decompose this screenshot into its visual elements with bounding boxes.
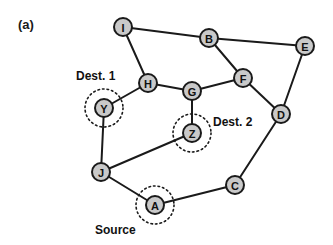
network-diagram-figure: IBEFHGYDZJCA Dest. 1Dest. 2Source (a) — [0, 0, 333, 245]
node-label-d: D — [277, 109, 285, 121]
node-label-b: B — [205, 33, 213, 45]
node-label-j: J — [98, 167, 104, 179]
node-label-a: A — [151, 200, 159, 212]
node-label-g: G — [188, 86, 197, 98]
node-c[interactable]: C — [226, 176, 244, 194]
node-h[interactable]: H — [139, 74, 157, 92]
node-d[interactable]: D — [272, 105, 290, 123]
node-i[interactable]: I — [114, 18, 132, 36]
node-label-e: E — [301, 41, 308, 53]
node-label-c: C — [231, 180, 239, 192]
node-z[interactable]: Z — [183, 124, 201, 142]
node-label-i: I — [121, 22, 124, 34]
node-label-y: Y — [100, 103, 108, 115]
annotation-dest1: Dest. 1 — [76, 69, 116, 83]
node-label-f: F — [240, 73, 247, 85]
edge-i-b — [123, 27, 209, 38]
annotation-dest2: Dest. 2 — [213, 115, 253, 129]
panel-label: (a) — [18, 17, 34, 32]
node-label-z: Z — [189, 128, 196, 140]
node-label-h: H — [144, 78, 152, 90]
edge-e-d — [281, 46, 305, 114]
edge-z-j — [101, 133, 192, 172]
annotation-source: Source — [95, 223, 136, 237]
node-e[interactable]: E — [296, 37, 314, 55]
node-a[interactable]: A — [146, 196, 164, 214]
node-b[interactable]: B — [200, 29, 218, 47]
node-f[interactable]: F — [234, 69, 252, 87]
nodes-layer: IBEFHGYDZJCA — [92, 18, 314, 214]
node-g[interactable]: G — [183, 82, 201, 100]
node-y[interactable]: Y — [95, 99, 113, 117]
edge-b-e — [209, 38, 305, 46]
node-j[interactable]: J — [92, 163, 110, 181]
edge-a-c — [155, 185, 235, 205]
graph-canvas: IBEFHGYDZJCA Dest. 1Dest. 2Source (a) — [0, 0, 333, 245]
